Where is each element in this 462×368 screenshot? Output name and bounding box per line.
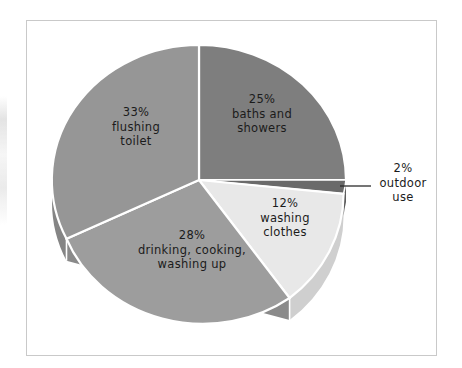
pie-chart-svg [0,0,462,368]
pie-top-faces [52,45,346,324]
pie-chart-page: 25% baths and showers 33% flushing toile… [0,0,462,368]
pie-chart-figure: 25% baths and showers 33% flushing toile… [0,0,462,368]
slice-baths-and-showers[interactable] [199,45,346,180]
